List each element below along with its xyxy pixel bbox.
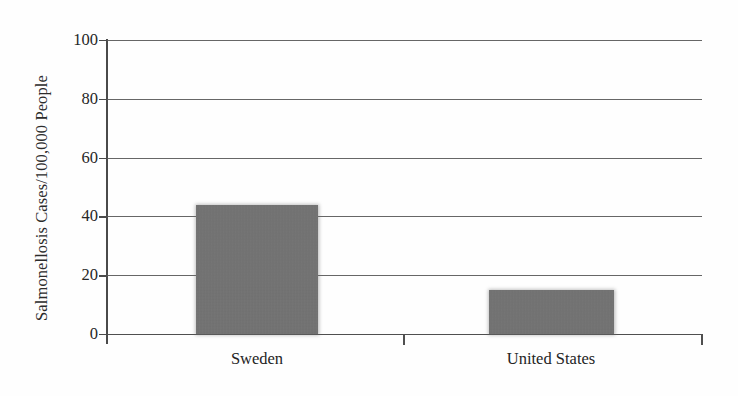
x-category-label-united-states: United States — [507, 349, 595, 369]
bar-chart: Salmonellosis Cases/100,000 People 100 8… — [0, 0, 738, 396]
bar-sweden — [196, 205, 318, 334]
gridline-100 — [107, 40, 702, 41]
x-tick-mark-right-end — [701, 334, 703, 345]
y-tick-label-80: 80 — [46, 91, 98, 108]
x-axis-line — [107, 334, 703, 335]
y-tick-label-0: 0 — [46, 326, 98, 343]
y-tick-label-20: 20 — [46, 267, 98, 284]
plot-area — [107, 40, 702, 334]
gridline-60 — [107, 158, 702, 159]
x-tick-mark-divider — [403, 334, 405, 345]
y-tick-label-60: 60 — [46, 149, 98, 166]
gridline-80 — [107, 99, 702, 100]
y-tick-label-40: 40 — [46, 208, 98, 225]
x-category-label-sweden: Sweden — [231, 349, 283, 369]
bar-united-states — [489, 290, 614, 334]
y-tick-label-100: 100 — [46, 32, 98, 49]
y-axis-tick-labels: 100 80 60 40 20 0 — [46, 0, 98, 396]
